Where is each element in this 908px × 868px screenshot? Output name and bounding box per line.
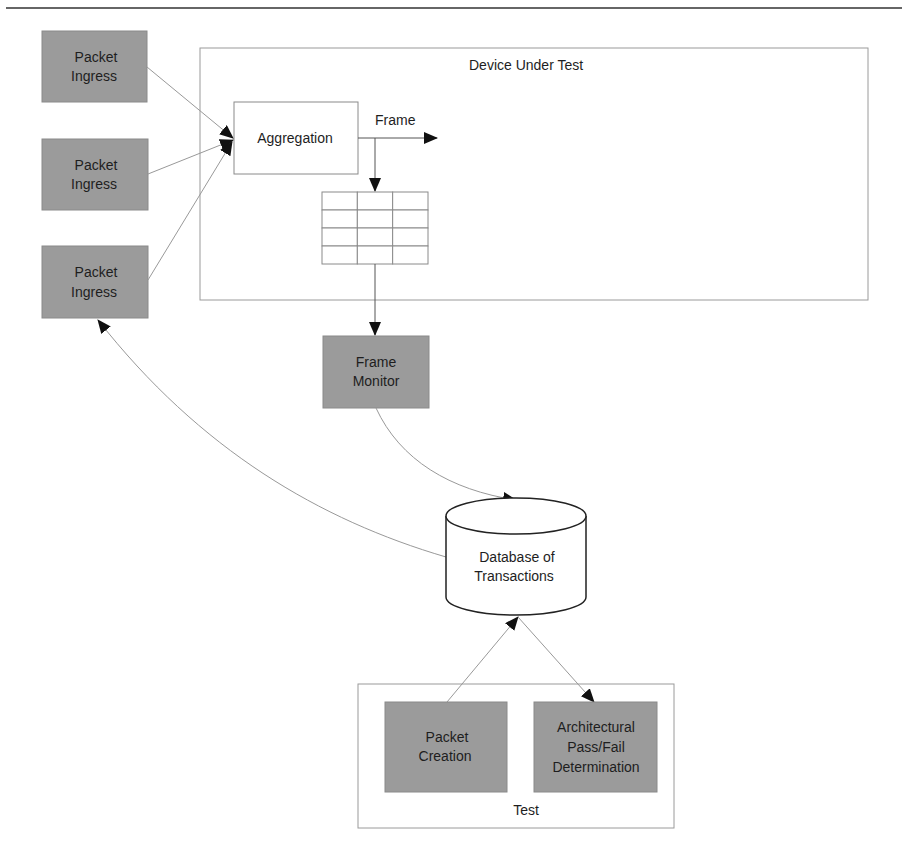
frame-monitor-line-1: Frame xyxy=(356,354,397,370)
edge-ingress1-to-aggregation xyxy=(147,67,233,138)
frame-buffer-cell xyxy=(357,246,392,264)
frame-monitor-line-2: Monitor xyxy=(353,373,400,389)
edge-packet-creation-to-database xyxy=(447,617,518,702)
frame-buffer-cell xyxy=(357,228,392,246)
packet-ingress-2: Packet Ingress xyxy=(42,139,148,210)
database-cylinder: Database of Transactions xyxy=(446,498,586,615)
test-label: Test xyxy=(513,802,539,818)
packet-creation-line-2: Creation xyxy=(419,748,472,764)
aggregation-label: Aggregation xyxy=(257,130,333,146)
frame-buffer-cell xyxy=(322,228,357,246)
frame-output-label: Frame xyxy=(375,112,416,128)
frame-buffer-cell xyxy=(393,210,428,228)
packet-ingress-3: Packet Ingress xyxy=(42,246,148,318)
arch-pass-fail-line-3: Determination xyxy=(552,759,639,775)
packet-ingress-2-line-1: Packet xyxy=(75,157,118,173)
edge-ingress3-to-aggregation xyxy=(148,142,232,280)
frame-buffer-cell xyxy=(322,246,357,264)
packet-ingress-3-line-1: Packet xyxy=(75,264,118,280)
database-line-2: Transactions xyxy=(474,568,554,584)
packet-ingress-1-line-1: Packet xyxy=(75,49,118,65)
packet-creation-line-1: Packet xyxy=(426,729,469,745)
frame-buffer-cell xyxy=(357,210,392,228)
frame-buffer-cell xyxy=(393,192,428,210)
frame-buffer-cell xyxy=(322,192,357,210)
edge-ingress2-to-aggregation xyxy=(148,140,233,174)
frame-buffer-cell xyxy=(393,246,428,264)
frame-monitor-box: Frame Monitor xyxy=(323,336,429,408)
aggregation-box: Aggregation xyxy=(234,102,358,174)
database-line-1: Database of xyxy=(479,549,555,565)
frame-buffer-cell xyxy=(322,210,357,228)
dut-label: Device Under Test xyxy=(469,57,583,73)
packet-ingress-3-line-2: Ingress xyxy=(71,284,117,300)
packet-ingress-1: Packet Ingress xyxy=(42,31,147,102)
frame-buffer-cell xyxy=(393,228,428,246)
packet-creation-box: Packet Creation xyxy=(385,702,507,792)
arch-pass-fail-line-1: Architectural xyxy=(557,719,635,735)
arch-pass-fail-line-2: Pass/Fail xyxy=(567,739,625,755)
frame-buffer-table xyxy=(322,192,428,264)
packet-ingress-2-line-2: Ingress xyxy=(71,176,117,192)
edge-database-to-arch-pass-fail xyxy=(518,617,594,702)
edge-frame-monitor-to-database xyxy=(376,408,516,500)
diagram-canvas: Device Under Test Packet Ingress Packet … xyxy=(0,0,908,868)
arch-pass-fail-box: Architectural Pass/Fail Determination xyxy=(534,702,657,792)
packet-ingress-1-line-2: Ingress xyxy=(71,68,117,84)
frame-buffer-cell xyxy=(357,192,392,210)
